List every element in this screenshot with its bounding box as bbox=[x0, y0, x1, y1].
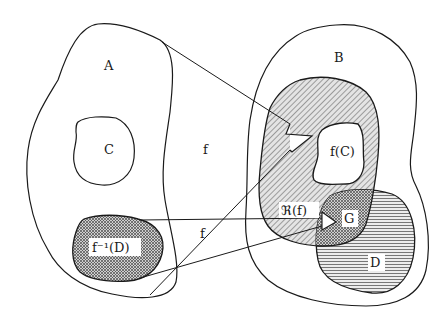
label-preimage: f⁻¹(D) bbox=[92, 240, 129, 255]
label-a: A bbox=[103, 58, 114, 73]
label-b: B bbox=[334, 50, 344, 65]
label-d: D bbox=[370, 255, 380, 270]
mapping-diagram: A C f f B f(C) f⁻¹(D) ℜ(f) G D bbox=[0, 0, 448, 322]
label-fc: f(C) bbox=[330, 144, 355, 159]
label-g: G bbox=[344, 211, 354, 226]
label-range: ℜ(f) bbox=[281, 203, 307, 218]
label-f-top: f bbox=[203, 142, 209, 157]
label-c: C bbox=[104, 142, 114, 157]
label-f-bottom: f bbox=[200, 226, 206, 241]
